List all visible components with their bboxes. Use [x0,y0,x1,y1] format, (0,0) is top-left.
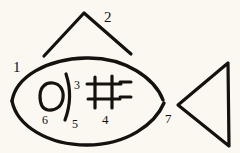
fish-body-lower-arc [12,101,164,145]
dorsal-fin-chevron [44,13,131,56]
fish-body-upper-arc [12,58,163,101]
label-6: 6 [42,114,48,126]
label-4: 4 [102,113,109,126]
tail-triangle [178,63,229,146]
label-5: 5 [72,118,78,130]
figure-canvas: 1 2 3 4 5 6 7 [0,0,240,153]
grid-mark [87,76,131,108]
label-7: 7 [165,112,172,125]
label-1: 1 [13,60,21,75]
label-3: 3 [74,79,80,91]
label-2: 2 [104,10,112,25]
fish-diagram [0,0,240,153]
curved-vertical-stroke [65,74,70,120]
eye-circle [40,83,63,110]
